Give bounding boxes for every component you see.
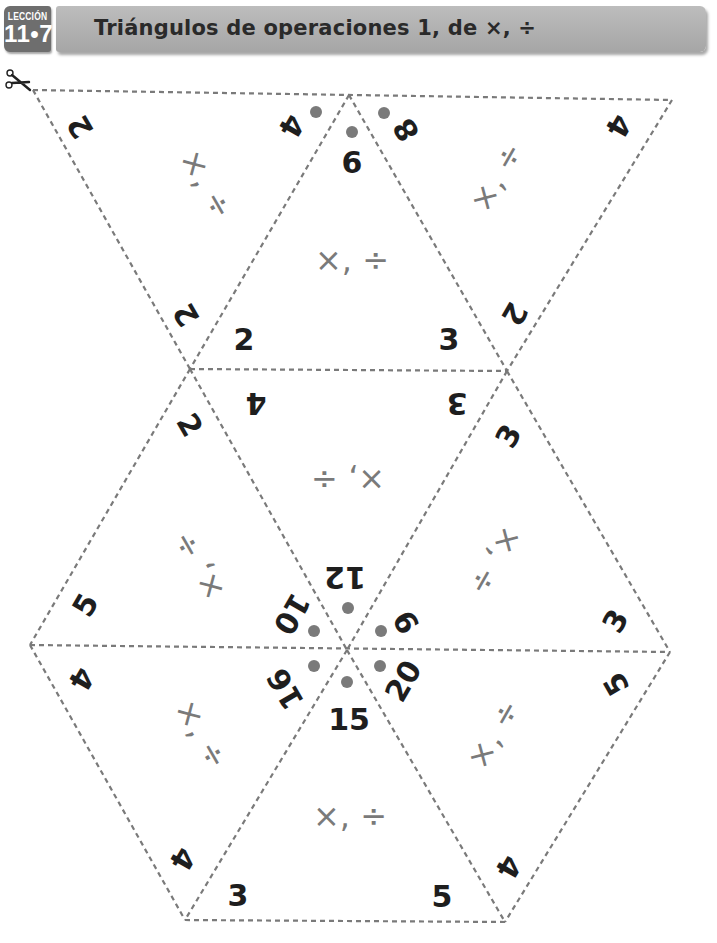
- number: 3: [488, 418, 529, 454]
- operations-label: ×, ÷: [172, 142, 242, 225]
- number: 2: [494, 296, 535, 332]
- dot-B: [346, 126, 358, 138]
- number: 5: [65, 587, 106, 623]
- dot-H: [341, 676, 353, 688]
- number: 2: [169, 407, 210, 443]
- number: 4: [162, 841, 203, 877]
- number: 15: [328, 702, 370, 737]
- dot-I: [374, 660, 386, 672]
- triangle-B: 6 2 3 ×, ÷: [234, 145, 460, 357]
- dot-F: [375, 625, 387, 637]
- number: 2: [166, 297, 207, 333]
- triangle-C: 8 4 2 ×, ÷: [386, 108, 639, 332]
- dot-E: [308, 625, 320, 637]
- number: 3: [439, 322, 460, 357]
- number: 5: [596, 666, 637, 702]
- number: 4: [61, 661, 102, 697]
- dot-A: [310, 106, 322, 118]
- number: 6: [342, 145, 363, 180]
- number: 5: [432, 879, 453, 914]
- number: 4: [488, 849, 529, 885]
- number: 9: [386, 604, 427, 640]
- number: 20: [378, 654, 429, 708]
- operations-label: ×, ÷: [311, 461, 385, 499]
- number: 4: [598, 108, 639, 144]
- number: 2: [60, 109, 101, 145]
- number: 3: [447, 386, 468, 421]
- number: 2: [234, 322, 255, 357]
- number: 12: [324, 560, 366, 595]
- operations-label: ×, ÷: [461, 135, 531, 218]
- triangle-E: 2 5 10 ×, ÷: [65, 407, 317, 641]
- number: 3: [595, 603, 636, 639]
- number: 4: [271, 108, 312, 144]
- operations-label: ×, ÷: [163, 524, 233, 607]
- operations-label: ×, ÷: [315, 241, 389, 279]
- triangle-sheet: 2 4 2 ×, ÷ 6 2 3 ×, ÷ 8 4 2 ×, ÷ 4 3 12 …: [0, 0, 717, 943]
- operations-label: ×, ÷: [313, 797, 387, 835]
- dot-G: [308, 660, 320, 672]
- triangle-H: 15 3 5 ×, ÷: [228, 702, 453, 914]
- number: 4: [246, 386, 267, 421]
- number: 3: [228, 878, 249, 913]
- number: 16: [260, 662, 311, 716]
- dot-C: [378, 107, 390, 119]
- number: 8: [386, 112, 427, 148]
- operations-label: ×, ÷: [167, 692, 237, 775]
- dot-D: [342, 602, 354, 614]
- operations-label: ×, ÷: [461, 519, 531, 602]
- triangle-A: 2 4 2 ×, ÷: [60, 108, 312, 333]
- operations-label: ×, ÷: [458, 692, 528, 775]
- triangle-D: 4 3 12 ×, ÷: [246, 386, 468, 595]
- triangle-G: 4 16 4 ×, ÷: [61, 661, 311, 877]
